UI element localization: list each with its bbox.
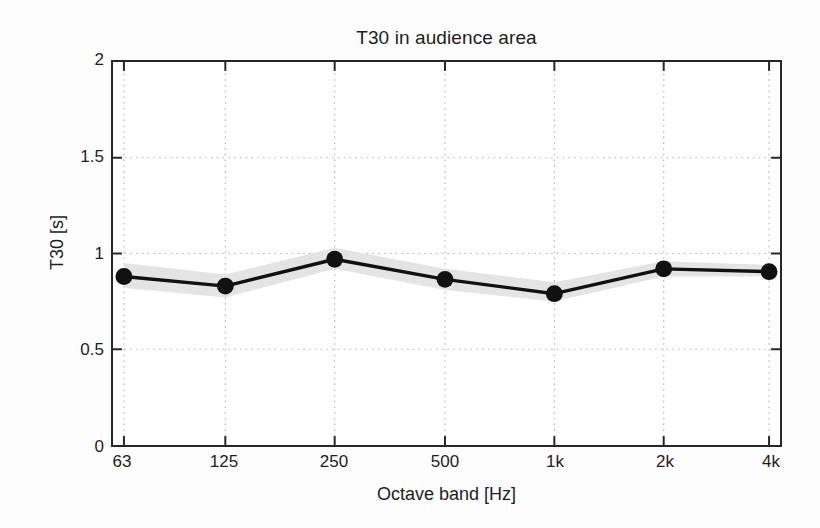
x-axis-tick-labels: 63 125 250 500 1k 2k 4k [111,452,782,478]
x-tick-label: 500 [410,452,480,472]
chart-figure: T30 in audience area T30 [s] 2 1.5 1 0.5… [0,0,820,528]
data-point [761,263,778,280]
x-tick-label: 63 [87,452,157,472]
y-tick-label: 1.5 [56,147,104,167]
data-point [437,271,454,288]
y-axis-tick-labels: 2 1.5 1 0.5 0 [52,60,104,447]
data-point [655,260,672,277]
horizontal-gridlines [113,158,780,350]
x-tick-label: 2k [630,452,700,472]
plot-svg [113,62,780,445]
x-tick-label: 125 [189,452,259,472]
data-point [115,268,132,285]
data-point [217,278,234,295]
plot-area [111,60,782,447]
chart-title: T30 in audience area [111,27,782,49]
x-tick-label: 1k [520,452,590,472]
data-point [326,251,343,268]
y-axis-ticks [113,158,780,350]
y-tick-label: 2 [56,50,104,70]
x-tick-label: 250 [299,452,369,472]
x-axis-title: Octave band [Hz] [111,484,782,505]
y-tick-label: 0.5 [56,340,104,360]
x-tick-label: 4k [736,452,806,472]
y-tick-label: 1 [56,244,104,264]
data-point [546,285,563,302]
